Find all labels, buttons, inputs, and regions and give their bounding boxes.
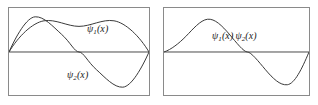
psi1-subscript: 1: [93, 28, 97, 36]
psi1-argument: (x): [97, 23, 108, 34]
product-plot: [164, 8, 309, 95]
psi2-argument: (x): [77, 69, 88, 80]
psi2-subscript: 2: [73, 74, 77, 82]
label-psi2: ψ2(x): [67, 70, 88, 80]
wavefunctions-plot: [9, 8, 149, 95]
wavefunction-figure: ψ1(x) ψ2(x) ψ1(x) ψ2(x): [0, 0, 318, 105]
product-second-argument: (x): [245, 30, 256, 41]
product-panel: ψ1(x) ψ2(x): [163, 7, 310, 96]
product-first-subscript: 1: [218, 35, 222, 43]
wavefunctions-panel: ψ1(x) ψ2(x): [8, 7, 150, 96]
product-first-argument: (x): [222, 30, 233, 41]
product-second-subscript: 2: [242, 35, 246, 43]
label-psi1: ψ1(x): [87, 24, 108, 34]
product-second-symbol: ψ: [235, 30, 241, 41]
label-psi1-psi2-product: ψ1(x) ψ2(x): [212, 31, 257, 41]
curve-psi1: [9, 20, 149, 52]
